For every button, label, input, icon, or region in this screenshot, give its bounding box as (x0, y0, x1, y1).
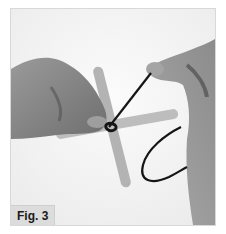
figure-label: Fig. 3 (11, 205, 55, 226)
figure-frame: Fig. 3 (10, 8, 216, 226)
photo-image (11, 9, 215, 225)
